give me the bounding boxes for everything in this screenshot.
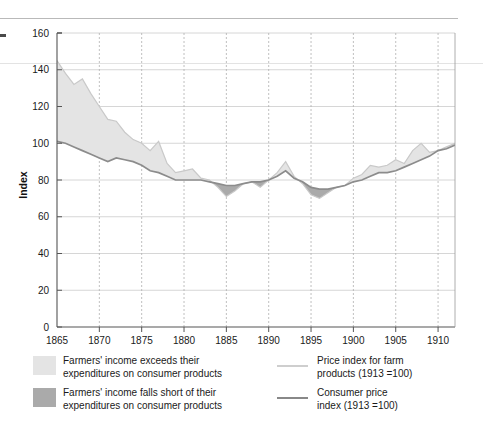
legend-swatch-1	[33, 388, 56, 407]
area-bands	[57, 61, 455, 199]
x-tick-label: 1890	[258, 335, 281, 346]
x-tick-labels: 1865187018751880188518901895190019051910	[46, 335, 450, 346]
x-tick-label: 1905	[385, 335, 408, 346]
legend-label-1-line2: expenditures on consumer products	[63, 400, 222, 411]
y-tick-label: 80	[38, 175, 50, 186]
y-tick-label: 100	[32, 138, 49, 149]
y-tick-label: 40	[38, 248, 50, 259]
legend-label-3-line1: Consumer price	[317, 387, 388, 398]
x-tick-label: 1875	[131, 335, 154, 346]
legend-label-0-line2: expenditures on consumer products	[63, 368, 222, 379]
y-tick-label: 160	[32, 28, 49, 39]
x-tick-marks	[99, 327, 438, 332]
y-axis-title: Index	[17, 171, 29, 199]
x-tick-label: 1895	[300, 335, 323, 346]
legend-swatch-0	[33, 356, 56, 375]
y-tick-label: 0	[43, 322, 49, 333]
chart-figure: 020406080100120140160 186518701875188018…	[0, 0, 483, 435]
y-tick-labels: 020406080100120140160	[32, 28, 49, 333]
x-tick-label: 1870	[88, 335, 111, 346]
legend-label-2-line1: Price index for farm	[317, 355, 404, 366]
legend-label-1-line1: Farmers' income falls short of their	[63, 387, 217, 398]
x-tick-label: 1910	[427, 335, 450, 346]
y-tick-label: 140	[32, 64, 49, 75]
band-income-exceeds	[57, 61, 455, 188]
x-tick-label: 1885	[215, 335, 238, 346]
x-tick-label: 1900	[342, 335, 365, 346]
x-tick-label: 1865	[46, 335, 69, 346]
legend-label-2-line2: products (1913 =100)	[317, 368, 412, 379]
y-tick-label: 20	[38, 285, 50, 296]
y-tick-label: 60	[38, 211, 50, 222]
y-tick-label: 120	[32, 101, 49, 112]
legend-label-3-line2: index (1913 =100)	[317, 400, 398, 411]
chart-svg: 020406080100120140160 186518701875188018…	[0, 0, 483, 435]
x-tick-label: 1880	[173, 335, 196, 346]
legend: Farmers' income exceeds their expenditur…	[33, 355, 412, 411]
legend-label-0-line1: Farmers' income exceeds their	[63, 355, 200, 366]
